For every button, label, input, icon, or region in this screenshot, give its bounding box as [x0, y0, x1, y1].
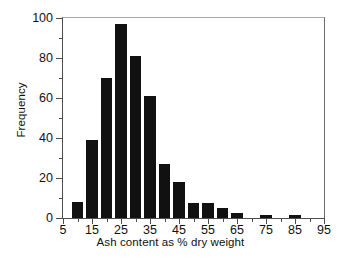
y-axis-tick — [56, 18, 63, 19]
x-axis-label: Ash content as % dry weight — [0, 236, 341, 248]
histogram-bar — [159, 164, 170, 218]
histogram-bar — [217, 208, 228, 218]
x-axis-minor-tick — [78, 218, 79, 222]
y-axis-tick-label: 100 — [32, 11, 53, 25]
y-axis-tick — [56, 218, 63, 219]
y-axis-minor-tick — [59, 158, 63, 159]
histogram-bar — [173, 182, 184, 218]
y-axis-tick — [56, 178, 63, 179]
x-axis-tick-label: 15 — [85, 223, 99, 237]
y-axis-tick — [56, 138, 63, 139]
x-axis-tick-label: 95 — [317, 223, 331, 237]
y-axis-tick-label: 80 — [39, 51, 53, 65]
histogram-bar — [86, 140, 97, 218]
x-axis-tick-label: 85 — [288, 223, 302, 237]
y-axis-minor-tick — [59, 78, 63, 79]
histogram-bar — [202, 203, 213, 218]
x-axis-tick-label: 5 — [60, 223, 67, 237]
y-axis-label: Frequency — [15, 82, 27, 137]
x-axis-tick-label: 75 — [259, 223, 273, 237]
x-axis-tick-label: 55 — [201, 223, 215, 237]
x-axis-minor-tick — [194, 218, 195, 222]
x-axis-minor-tick — [281, 218, 282, 222]
x-axis-minor-tick — [223, 218, 224, 222]
y-axis-tick — [56, 98, 63, 99]
x-axis-minor-tick — [165, 218, 166, 222]
x-axis-minor-tick — [136, 218, 137, 222]
x-axis-minor-tick — [310, 218, 311, 222]
y-axis-minor-tick — [59, 118, 63, 119]
y-axis-label-container: Frequency — [10, 0, 32, 219]
y-axis-tick-label: 40 — [39, 131, 53, 145]
y-axis-tick — [56, 58, 63, 59]
y-axis-tick-label: 20 — [39, 171, 53, 185]
y-axis-tick-label: 0 — [46, 211, 53, 225]
y-axis-minor-tick — [59, 198, 63, 199]
x-axis-minor-tick — [252, 218, 253, 222]
plot-area: 0204060801005152535455565758595 — [62, 17, 325, 219]
histogram-bar — [188, 203, 199, 218]
histogram-bar — [130, 56, 141, 218]
histogram-bar — [115, 24, 126, 218]
histogram-bar — [144, 96, 155, 218]
x-axis-tick-label: 45 — [172, 223, 186, 237]
x-axis-tick-label: 25 — [114, 223, 128, 237]
histogram-bar — [72, 202, 83, 218]
x-axis-minor-tick — [107, 218, 108, 222]
x-axis-tick-label: 35 — [143, 223, 157, 237]
histogram-figure: Frequency 020406080100515253545556575859… — [0, 0, 341, 267]
histogram-bar — [101, 78, 112, 218]
y-axis-minor-tick — [59, 38, 63, 39]
y-axis-tick-label: 60 — [39, 91, 53, 105]
x-axis-tick-label: 65 — [230, 223, 244, 237]
